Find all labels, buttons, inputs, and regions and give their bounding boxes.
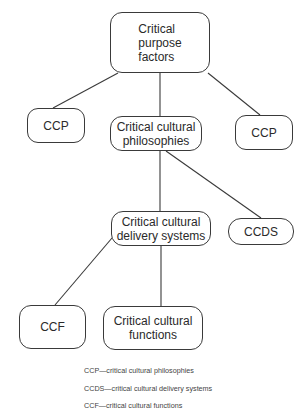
edge-root-ccp-left — [53, 73, 118, 108]
node-ccf: CCF — [19, 305, 86, 349]
node-critical-purpose-factors: Critical purpose factors — [110, 12, 210, 73]
node-ccds: CCDS — [228, 218, 294, 245]
node-ccp-right: CCP — [235, 115, 293, 150]
node-ccp-left: CCP — [27, 108, 85, 143]
node-label: Critical cultural delivery systems — [117, 215, 206, 243]
node-critical-cultural-philosophies: Critical cultural philosophies — [110, 116, 202, 151]
edge-root-ccp-right — [208, 73, 260, 115]
node-critical-cultural-delivery-systems: Critical cultural delivery systems — [111, 211, 211, 246]
node-label: Critical purpose factors — [138, 22, 181, 64]
node-label: CCP — [251, 126, 276, 140]
node-critical-cultural-functions: Critical cultural functions — [103, 306, 203, 350]
legend: CCP—critical cultural philosophies CCDS—… — [84, 364, 212, 417]
node-label: Critical cultural functions — [114, 314, 193, 342]
node-label: CCP — [43, 119, 68, 133]
legend-item-ccf: CCF—critical cultural functions — [84, 399, 212, 417]
edge-philosophies-ccds — [166, 151, 261, 218]
edge-delivery-ccf — [55, 238, 112, 305]
node-label: CCDS — [244, 225, 278, 239]
node-label: Critical cultural philosophies — [117, 120, 196, 148]
legend-item-ccp: CCP—critical cultural philosophies — [84, 364, 212, 382]
node-label: CCF — [40, 320, 65, 334]
legend-item-ccds: CCDS—critical cultural delivery systems — [84, 382, 212, 400]
